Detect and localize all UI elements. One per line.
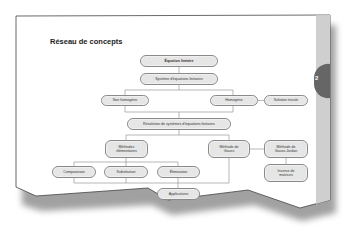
concept-map-page: Réseau de concepts 2 Équation linéaire S… xyxy=(0,0,344,235)
node-systeme: Système d'équations linéaires xyxy=(140,73,218,85)
node-applications: Applications xyxy=(157,188,200,200)
node-resolution: Résolution de systèmes d'équations linéa… xyxy=(127,118,231,130)
node-homogene: Homogène xyxy=(210,95,258,106)
node-methode-gauss-jordan: Méthode de Gauss-Jordan xyxy=(264,140,308,158)
node-solution-triviale: Solution triviale xyxy=(264,95,308,106)
node-methode-gauss: Méthode de Gauss xyxy=(208,140,250,158)
node-equation-lineaire: Équation linéaire xyxy=(140,55,218,67)
page-title: Réseau de concepts xyxy=(50,37,123,46)
node-non-homogene: Non homogène xyxy=(101,95,149,106)
node-inverse-matrices: Inverse de matrices xyxy=(264,164,308,182)
node-substitution: Substitution xyxy=(104,166,148,178)
chapter-tab: 2 xyxy=(315,75,318,81)
node-comparaison: Comparaison xyxy=(52,166,96,178)
node-methodes-elementaires: Méthodes élémentaires xyxy=(105,140,148,158)
node-elimination: Élimination xyxy=(157,166,200,178)
